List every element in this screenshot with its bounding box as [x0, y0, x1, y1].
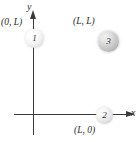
coordinate-label-corner: (L, L) [73, 17, 95, 27]
sphere-3: 3 [98, 31, 119, 52]
sphere-2-label: 2 [102, 111, 107, 120]
coordinate-label-origin-x: (L, 0) [74, 126, 95, 136]
physics-diagram-figure: y x (0, L) (L, L) (L, 0) 1 2 3 [0, 0, 139, 142]
coordinate-label-origin-y: (0, L) [1, 18, 22, 28]
sphere-1: 1 [25, 29, 44, 48]
x-axis-line [14, 114, 131, 115]
sphere-3-label: 3 [106, 37, 111, 46]
sphere-1-label: 1 [32, 34, 37, 43]
y-axis-label: y [27, 2, 31, 12]
sphere-2: 2 [96, 107, 113, 124]
x-axis-label: x [131, 108, 135, 118]
